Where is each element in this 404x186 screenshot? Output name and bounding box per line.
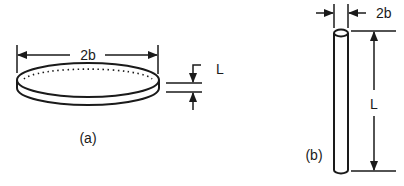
- disk-dotted-rim: [24, 69, 152, 79]
- diagram-canvas: 2b L (a) 2b L (b): [0, 0, 404, 186]
- rod-width-label: 2b: [376, 5, 392, 21]
- caption-b: (b): [305, 147, 322, 163]
- rod-length-label: L: [370, 96, 378, 112]
- disk-top-ellipse: [17, 63, 159, 97]
- disk-width-label: 2b: [80, 47, 96, 63]
- rod-figure: 2b L (b): [305, 4, 396, 174]
- disk-figure: 2b L (a): [17, 45, 224, 146]
- disk-thickness-label: L: [216, 61, 224, 77]
- caption-a: (a): [79, 130, 96, 146]
- disk-thickness-arrow-down: [193, 65, 201, 82]
- rod-top-ellipse: [334, 30, 348, 37]
- rod-body: [334, 33, 348, 174]
